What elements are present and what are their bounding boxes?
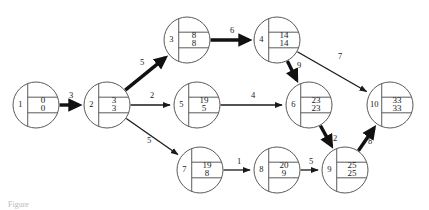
edge-2-to-7 <box>126 118 178 154</box>
node-id-label-1: 1 <box>18 99 22 109</box>
edge-label-1-to-2: 3 <box>69 90 73 100</box>
node-id-label-4: 4 <box>259 34 264 44</box>
node-id-label-7: 7 <box>182 164 186 174</box>
node-id-label-9: 9 <box>327 164 331 174</box>
node-6: 62323 <box>286 82 332 128</box>
node-8: 8209 <box>254 147 300 193</box>
node-1: 100 <box>13 82 59 128</box>
node-latest-time-8: 9 <box>282 168 287 178</box>
edge-6-to-9 <box>320 126 331 146</box>
node-4: 41414 <box>254 17 300 63</box>
node-latest-time-4: 14 <box>279 38 289 48</box>
node-latest-time-1: 0 <box>41 103 46 113</box>
node-9: 92525 <box>322 147 368 193</box>
edge-label-6-to-9: 2 <box>333 133 337 143</box>
node-id-label-2: 2 <box>89 99 93 109</box>
node-latest-time-10: 33 <box>392 103 402 113</box>
node-id-label-3: 3 <box>169 34 173 44</box>
edge-label-3-to-4: 6 <box>230 25 234 35</box>
edge-label-2-to-5: 2 <box>150 90 154 100</box>
node-2: 233 <box>84 82 130 128</box>
node-7: 7198 <box>177 147 223 193</box>
network-diagram-canvas: 352569742158 100233388414145195623237198… <box>0 0 429 210</box>
node-id-label-6: 6 <box>291 99 295 109</box>
node-id-label-10: 10 <box>370 99 379 109</box>
node-id-label-8: 8 <box>259 164 263 174</box>
figure-caption: Figure <box>8 200 308 210</box>
edge-label-4-to-10: 7 <box>338 51 342 61</box>
node-id-label-5: 5 <box>179 99 183 109</box>
node-latest-time-6: 23 <box>311 103 321 113</box>
edge-label-4-to-6: 9 <box>297 60 301 70</box>
edge-label-9-to-10: 8 <box>368 136 372 146</box>
node-10: 103333 <box>367 82 413 128</box>
network-diagram-figure: 352569742158 100233388414145195623237198… <box>0 0 429 210</box>
node-latest-time-3: 8 <box>192 38 197 48</box>
node-latest-time-5: 5 <box>202 103 207 113</box>
edge-4-to-6 <box>287 61 296 80</box>
node-latest-time-2: 3 <box>112 103 117 113</box>
node-latest-time-7: 8 <box>205 168 210 178</box>
edge-label-2-to-7: 5 <box>147 135 151 145</box>
node-latest-time-9: 25 <box>347 168 357 178</box>
node-3: 388 <box>164 17 210 63</box>
edge-label-5-to-6: 4 <box>251 90 256 100</box>
edge-label-2-to-3: 5 <box>140 57 144 67</box>
edge-label-7-to-8: 1 <box>237 156 241 166</box>
node-5: 5195 <box>174 82 220 128</box>
edge-2-to-3 <box>125 58 165 91</box>
edge-label-8-to-9: 5 <box>309 156 313 166</box>
